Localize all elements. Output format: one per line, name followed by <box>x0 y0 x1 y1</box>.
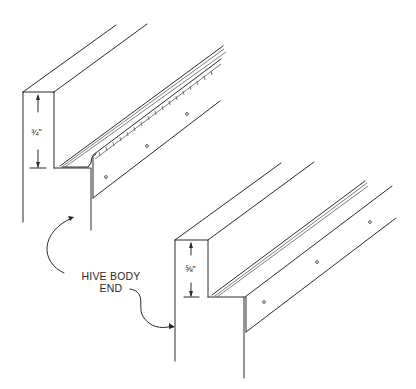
callout-hive-body-end: HIVE BODY END <box>76 270 146 294</box>
diagram-canvas: ¾" ⅝" HIVE BODY END <box>0 0 416 389</box>
callout-arrow-upper <box>47 216 74 273</box>
lower-hive-end <box>175 162 314 378</box>
screw-hole <box>369 221 372 224</box>
screw-hole <box>105 176 108 179</box>
screw-hole <box>186 113 189 116</box>
line-drawing <box>0 0 416 389</box>
lower-metal-rest <box>212 181 396 332</box>
callout-arrow-lower <box>130 289 175 329</box>
dimension-label-five-eighths: ⅝" <box>185 264 196 274</box>
screw-hole <box>316 261 319 264</box>
screw-hole <box>146 145 149 148</box>
dimension-label-three-quarter: ¾" <box>31 127 42 137</box>
callout-line-1: HIVE BODY <box>76 270 146 282</box>
callout-line-2: END <box>76 282 146 294</box>
screw-hole <box>263 301 266 304</box>
